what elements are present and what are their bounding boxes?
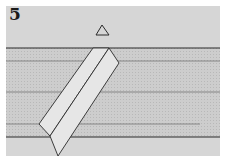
cross-section-diagram [0,0,227,159]
diagram-figure: 5 [0,0,227,159]
panel-number: 5 [9,4,21,24]
